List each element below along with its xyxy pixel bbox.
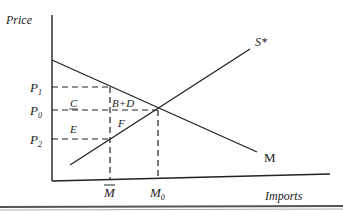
- region-bd-label: B+D: [112, 97, 134, 109]
- m0-label: M0: [149, 185, 165, 202]
- x-axis-label: Imports: [264, 189, 303, 203]
- demand-curve-label: M: [264, 150, 276, 165]
- supply-curve-label: S*: [255, 35, 267, 49]
- region-e-label: E: [69, 123, 77, 135]
- mbar-label: M: [103, 185, 116, 200]
- y-axis-label: Price: [5, 13, 33, 27]
- import-demand-curve: [52, 60, 257, 152]
- region-c-label: C: [70, 97, 78, 109]
- supply-curve: [70, 49, 250, 165]
- region-f-label: F: [117, 117, 125, 129]
- p0-label: P0: [29, 103, 42, 120]
- p2-label: P2: [29, 132, 42, 149]
- bottom-rule: [0, 206, 343, 207]
- p1-label: P1: [29, 80, 42, 97]
- import-quota-diagram: Price Imports M S* P1 P0 P2 M M0 C B+D E…: [0, 0, 343, 212]
- x-axis: [52, 174, 330, 181]
- bottom-rule-thin: [0, 209, 343, 210]
